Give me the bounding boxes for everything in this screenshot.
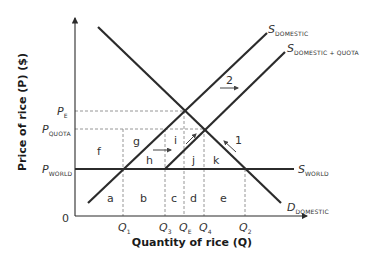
qty-label-q2: Q2	[239, 221, 252, 235]
domestic-demand-line	[98, 27, 281, 203]
x-axis-title: Quantity of rice (Q)	[132, 236, 252, 249]
area-i: i	[174, 134, 177, 147]
area-d: d	[190, 192, 197, 205]
area-j: j	[191, 154, 195, 167]
area-c: c	[171, 192, 177, 205]
domestic-supply-line	[88, 33, 267, 203]
curve-label-s-domestic-quota: SDOMESTIC + QUOTA	[287, 42, 360, 56]
curve-label-s-world: SWORLD	[298, 163, 329, 177]
qty-label-q4: Q4	[199, 221, 212, 235]
arrow-label-1: 1	[235, 134, 242, 147]
area-b: b	[140, 192, 147, 205]
area-a: a	[107, 192, 114, 205]
price-label-pworld: PWORLD	[42, 163, 73, 177]
qty-label-q3: Q3	[159, 221, 172, 235]
price-label-pe: PE	[57, 105, 68, 119]
quota-diagram: Quantity of rice (Q) Price of rice (P) (…	[0, 0, 372, 264]
area-e: e	[220, 192, 227, 205]
y-axis-title: Price of rice (P) ($)	[16, 53, 29, 171]
origin-label: 0	[62, 212, 69, 225]
price-label-pquota: PQUOTA	[42, 123, 71, 137]
curve-label-d-domestic: DDOMESTIC	[287, 201, 329, 215]
area-k: k	[213, 154, 220, 167]
area-g: g	[133, 135, 140, 148]
area-h: h	[146, 154, 153, 167]
curves	[75, 27, 294, 203]
curve-label-s-domestic: SDOMESTIC	[268, 23, 308, 37]
domestic-plus-quota-supply-line	[165, 52, 285, 169]
qty-label-q1: Q1	[118, 221, 131, 235]
arrow-label-2: 2	[226, 74, 233, 87]
qty-label-qe: QE	[179, 221, 192, 235]
area-f: f	[97, 145, 102, 158]
